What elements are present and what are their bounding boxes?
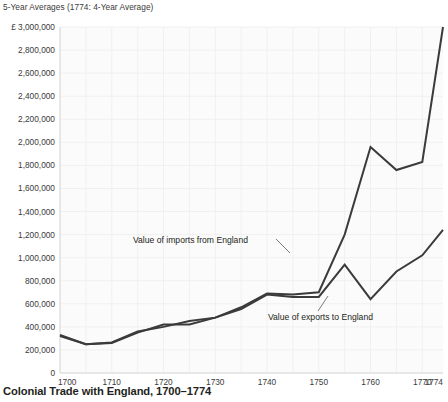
x-tick-label: 1774 xyxy=(425,377,444,387)
y-tick-label: 2,400,000 xyxy=(18,91,55,101)
y-tick-label: 2,800,000 xyxy=(18,45,55,55)
y-tick-label: 1,200,000 xyxy=(18,230,55,240)
plot-area-background xyxy=(60,27,443,373)
y-tick-label: 1,000,000 xyxy=(18,253,55,263)
line-chart-svg: 0200,000400,000600,000800,0001,000,0001,… xyxy=(0,0,448,402)
y-tick-label: 2,200,000 xyxy=(18,114,55,124)
chart-title: Colonial Trade with England, 1700–1774 xyxy=(3,385,211,397)
x-tick-label: 1760 xyxy=(361,377,380,387)
y-tick-label: 2,600,000 xyxy=(18,68,55,78)
plot-background xyxy=(60,27,443,373)
y-tick-label: 400,000 xyxy=(25,322,55,332)
y-tick-label: 800,000 xyxy=(25,276,55,286)
y-tick-label: 0 xyxy=(50,368,55,378)
y-tick-label: 1,800,000 xyxy=(18,160,55,170)
y-tick-label: 1,400,000 xyxy=(18,207,55,217)
y-tick-label: 2,000,000 xyxy=(18,137,55,147)
x-tick-label: 1750 xyxy=(310,377,329,387)
y-axis-tick-labels: 0200,000400,000600,000800,0001,000,0001,… xyxy=(11,22,55,378)
y-tick-label: 600,000 xyxy=(25,299,55,309)
y-tick-label: 1,600,000 xyxy=(18,183,55,193)
y-tick-label: £ 3,000,000 xyxy=(11,22,55,32)
x-tick-label: 1740 xyxy=(258,377,277,387)
y-tick-label: 200,000 xyxy=(25,345,55,355)
imports-annotation-label: Value of imports from England xyxy=(133,235,248,245)
colonial-trade-chart-figure: 5-Year Averages (1774: 4-Year Average) 0… xyxy=(0,0,448,402)
exports-annotation-label: Value of exports to England xyxy=(268,312,373,322)
